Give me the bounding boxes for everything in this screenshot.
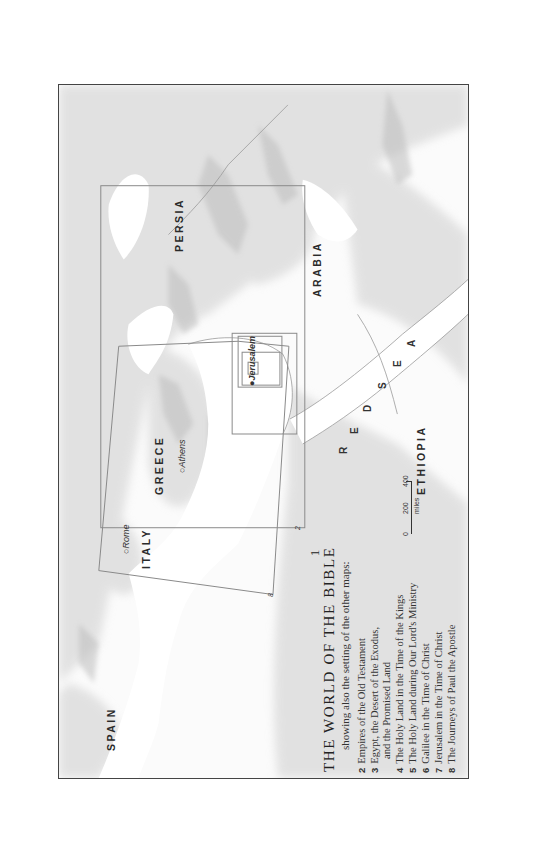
region-label-greece: GREECE xyxy=(153,436,165,495)
legend-item-6: 6Galilee in the Time of Christ xyxy=(420,643,431,773)
city-label-athens: ○Athens xyxy=(177,440,187,473)
scale-tick-200: 200 xyxy=(402,502,409,514)
legend-item-7: 7Jerusalem in the Time of Christ xyxy=(433,632,444,773)
city-label-rome: ○Rome xyxy=(121,525,131,554)
legend-item-8: 8The Journeys of Paul the Apostle xyxy=(446,625,457,773)
scale-tick-400: 400 xyxy=(402,475,409,487)
region-label-spain: SPAIN xyxy=(105,707,117,751)
sea-label-red-sea-e2: E xyxy=(392,360,403,367)
inset-label-map2: 2 xyxy=(294,526,301,530)
scale-tick-0: 0 xyxy=(402,532,409,536)
scale-bar: 0 200 400 miles xyxy=(402,474,418,534)
sea-label-red-sea-a: A xyxy=(406,340,417,347)
scale-unit: miles xyxy=(413,498,420,514)
legend-item-5: 5The Holy Land during Our Lord's Ministr… xyxy=(407,583,418,773)
region-label-persia: PERSIA xyxy=(173,198,185,252)
map-title: THE WORLD OF THE BIBLE xyxy=(321,547,338,772)
region-label-italy: ITALY xyxy=(140,528,152,569)
legend-item-2: 2Empires of the Old Testament xyxy=(356,638,367,773)
sea-label-red-sea-d: D xyxy=(362,405,373,412)
legend-item-4: 4The Holy Land in the Time of the Kings xyxy=(394,595,405,773)
region-label-arabia: ARABIA xyxy=(311,241,323,297)
sea-label-red-sea-e: E xyxy=(349,427,360,434)
sea-label-red-sea-r: R xyxy=(338,447,349,454)
sea-label-red-sea-s: S xyxy=(377,382,388,389)
legend-item-3: 3Egypt, the Desert of the Exodus, xyxy=(369,627,380,773)
inset-label-map8: 8 xyxy=(267,593,274,597)
legend-item-3-cont: and the Promised Land xyxy=(381,662,392,759)
city-label-jerusalem: ●Jerusalem xyxy=(247,336,257,386)
map-subtitle: showing also the setting of the other ma… xyxy=(339,562,351,751)
